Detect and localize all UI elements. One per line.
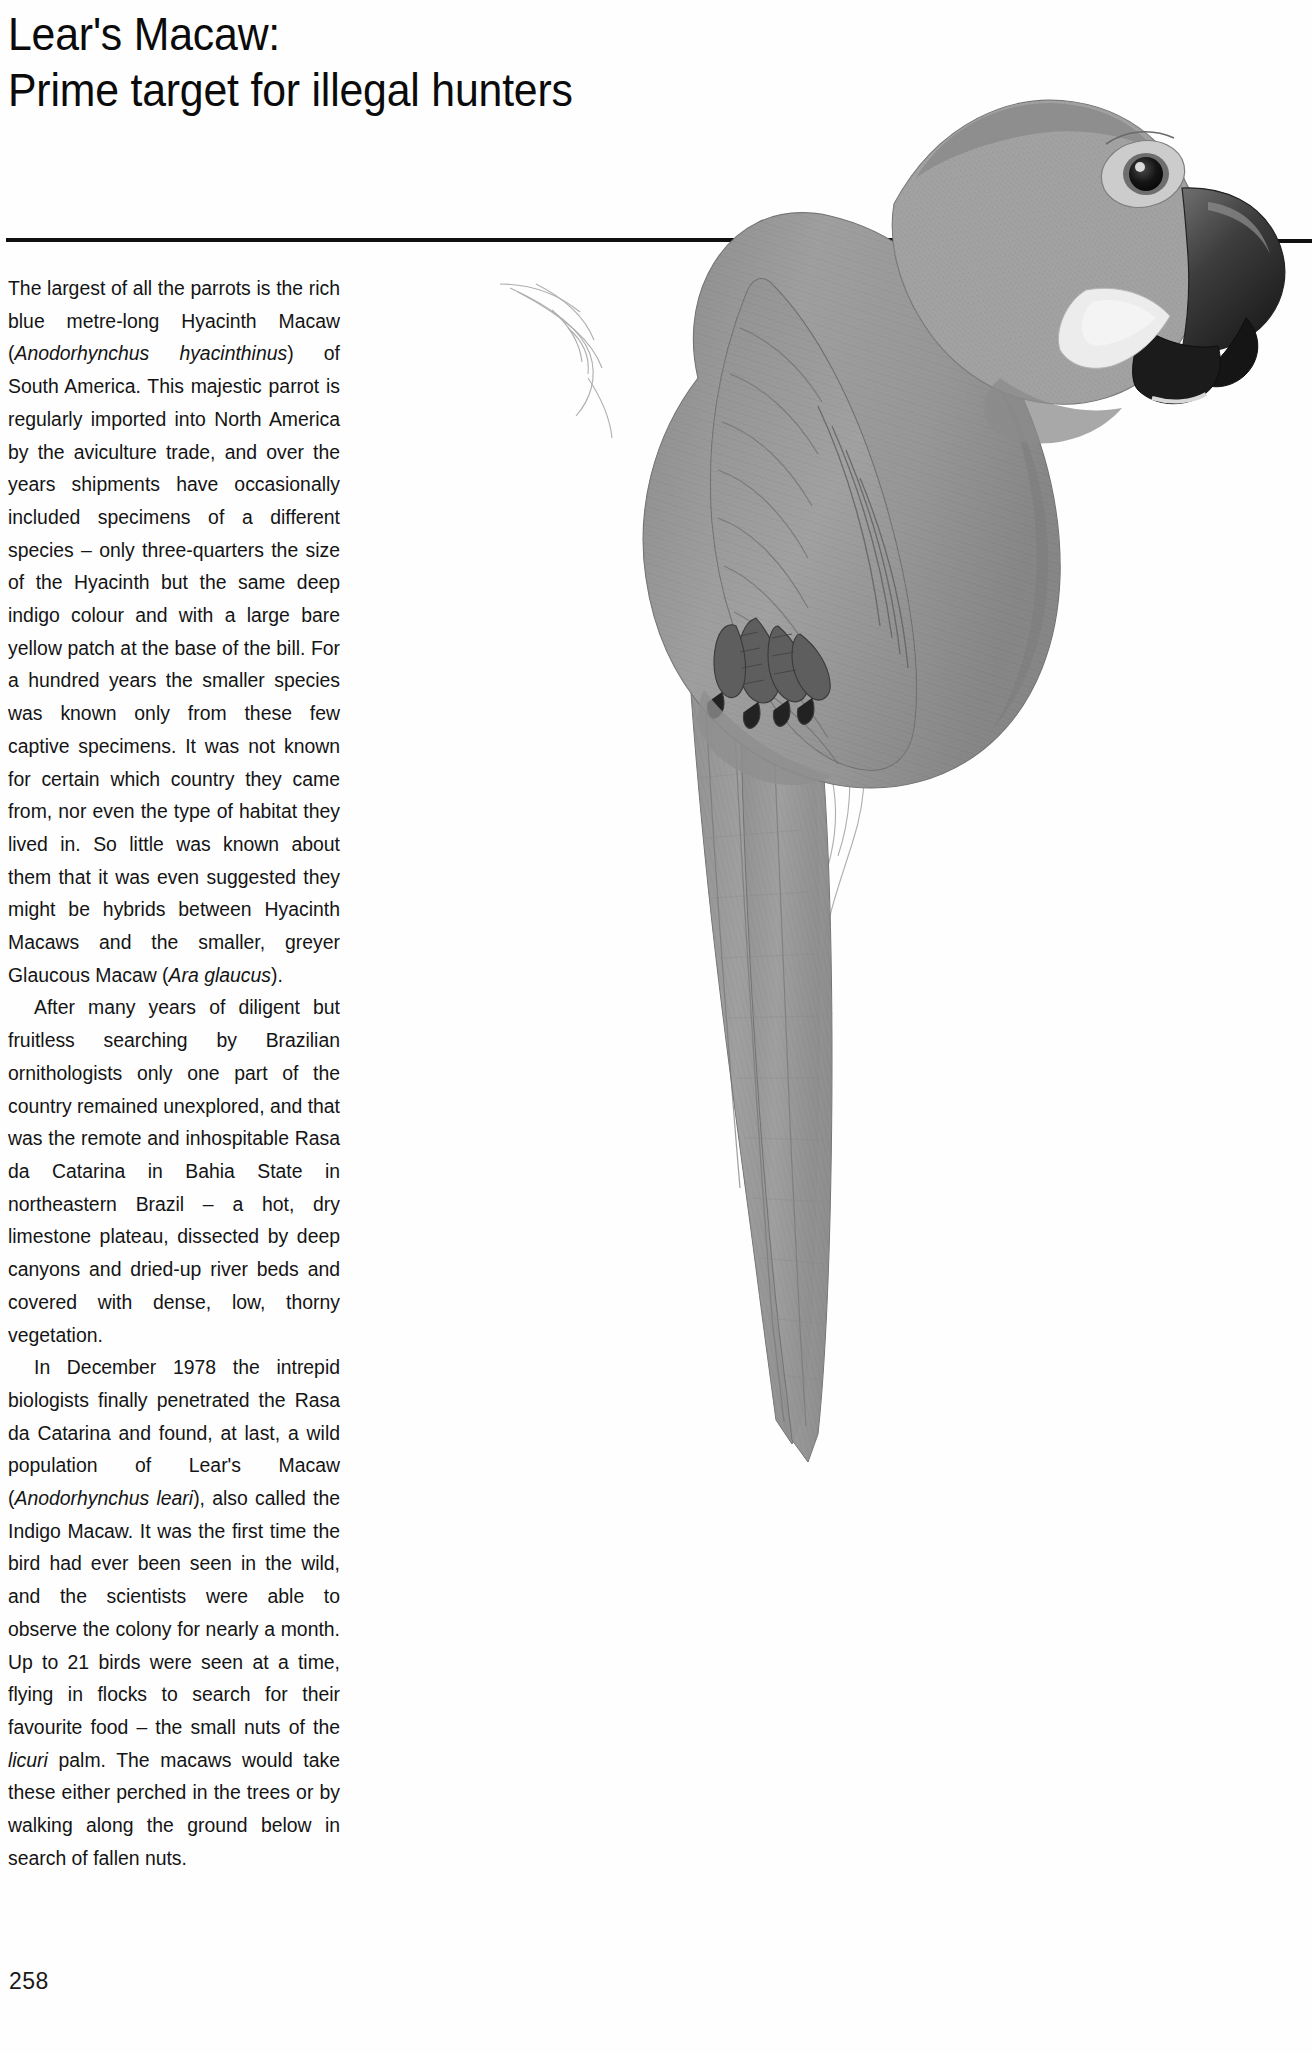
branch-sketch bbox=[500, 284, 926, 1014]
macaw-wing bbox=[710, 279, 916, 771]
article-body: The largest of all the parrots is the ri… bbox=[8, 272, 340, 1874]
document-page: Lear's Macaw: Prime target for illegal h… bbox=[0, 0, 1312, 2054]
page-title-line-2: Prime target for illegal hunters bbox=[8, 62, 845, 118]
page-title-line-1: Lear's Macaw: bbox=[8, 6, 845, 62]
page-title: Lear's Macaw: Prime target for illegal h… bbox=[8, 6, 908, 118]
macaw-illustration bbox=[440, 78, 1312, 1528]
paragraph-3: In December 1978 the intrepid biologists… bbox=[8, 1351, 340, 1874]
macaw-breast bbox=[980, 358, 1048, 730]
macaw-throat bbox=[984, 378, 1122, 443]
macaw-body bbox=[643, 213, 1060, 788]
macaw-feet bbox=[707, 618, 830, 728]
macaw-beak bbox=[1058, 188, 1284, 404]
header-rule bbox=[6, 238, 931, 242]
paragraph-1: The largest of all the parrots is the ri… bbox=[8, 272, 340, 991]
macaw-head bbox=[892, 100, 1204, 404]
macaw-vent bbox=[698, 690, 832, 785]
page-number: 258 bbox=[9, 1968, 49, 1995]
macaw-tail bbox=[686, 596, 832, 1462]
paragraph-2: After many years of diligent but fruitle… bbox=[8, 991, 340, 1351]
header-rule-right-segment bbox=[1266, 239, 1312, 243]
macaw-eye bbox=[1095, 132, 1191, 215]
